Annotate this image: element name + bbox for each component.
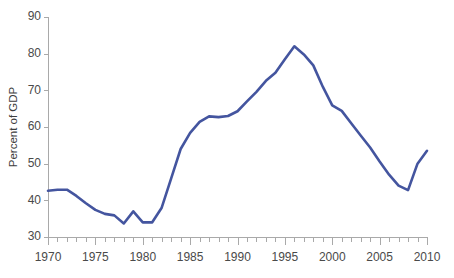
data-series-group <box>48 46 427 223</box>
y-tick-label: 30 <box>28 229 42 243</box>
x-tick-label: 2000 <box>319 250 346 264</box>
x-tick-label: 2010 <box>414 250 441 264</box>
line-chart: Percent of GDP 30405060708090 1970197519… <box>0 0 454 278</box>
x-tick-label: 1995 <box>272 250 299 264</box>
y-axis-ticks <box>44 18 48 238</box>
data-series-line <box>48 46 427 223</box>
x-tick-label: 1975 <box>82 250 109 264</box>
chart-container: Percent of GDP 30405060708090 1970197519… <box>0 0 454 278</box>
y-axis-tick-labels: 30405060708090 <box>28 9 42 243</box>
y-tick-label: 60 <box>28 119 42 133</box>
x-axis-tick-labels: 197019751980198519901995200020052010 <box>35 250 441 264</box>
y-tick-label: 50 <box>28 156 42 170</box>
y-tick-label: 40 <box>28 193 42 207</box>
x-tick-label: 1970 <box>35 250 62 264</box>
x-tick-label: 2005 <box>366 250 393 264</box>
x-tick-label: 1990 <box>224 250 251 264</box>
y-tick-label: 70 <box>28 83 42 97</box>
y-tick-label: 90 <box>28 9 42 23</box>
x-tick-label: 1980 <box>129 250 156 264</box>
x-tick-label: 1985 <box>177 250 204 264</box>
y-axis-title: Percent of GDP <box>7 86 19 167</box>
y-tick-label: 80 <box>28 46 42 60</box>
